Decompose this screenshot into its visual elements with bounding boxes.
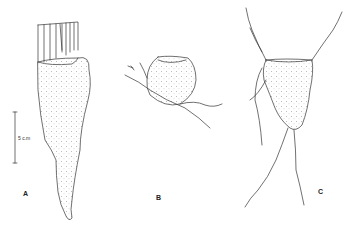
panel-label-c: C bbox=[318, 188, 323, 195]
panel-label-a: A bbox=[23, 190, 28, 197]
panel-b-drawing bbox=[125, 56, 222, 128]
figure-drawing bbox=[0, 0, 345, 230]
panel-label-b: B bbox=[156, 194, 161, 201]
scale-bar-label: 5 c.m bbox=[18, 135, 30, 141]
panel-c-drawing bbox=[245, 8, 342, 207]
